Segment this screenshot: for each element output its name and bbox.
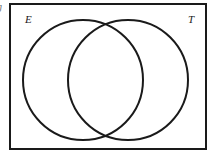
set-label-e: E — [25, 14, 32, 25]
set-label-t: T — [188, 14, 194, 25]
set-circle-t — [68, 20, 188, 140]
venn-diagram-figure: g E T — [0, 0, 213, 158]
set-circle-e — [23, 20, 143, 140]
